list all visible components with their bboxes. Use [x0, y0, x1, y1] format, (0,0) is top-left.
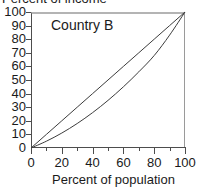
x-axis-tick	[185, 148, 186, 154]
x-axis-tick-label: 80	[141, 156, 167, 169]
x-axis-tick	[154, 148, 155, 154]
y-axis-tick	[26, 12, 31, 13]
x-axis-tick-label: 40	[80, 156, 106, 169]
x-axis-minor-tick	[139, 148, 140, 151]
y-axis-tick	[26, 134, 31, 135]
y-axis-tick	[26, 66, 31, 67]
y-axis-tick	[26, 121, 31, 122]
y-axis-tick-label: 30	[2, 100, 26, 113]
y-axis-tick	[26, 80, 31, 81]
x-axis-tick	[31, 148, 32, 154]
y-axis-tick-label: 100	[2, 5, 26, 18]
y-axis-tick-label: 90	[2, 19, 26, 32]
y-axis-tick	[26, 53, 31, 54]
y-axis-tick-label: 50	[2, 73, 26, 86]
x-axis-minor-tick	[77, 148, 78, 151]
x-axis-tick-label: 60	[110, 156, 136, 169]
y-axis-tick	[26, 26, 31, 27]
x-axis-tick-label: 0	[18, 156, 44, 169]
y-axis-tick-label: 60	[2, 59, 26, 72]
y-axis-tick-label: 10	[2, 127, 26, 140]
x-axis-tick	[93, 148, 94, 154]
y-axis-tick	[26, 107, 31, 108]
y-axis-tick-label: 40	[2, 87, 26, 100]
y-axis-tick-label: 70	[2, 46, 26, 59]
series-annotation-label: Country B	[51, 17, 113, 33]
y-axis-tick	[26, 94, 31, 95]
x-axis-tick	[123, 148, 124, 154]
lorenz-curve-chart: Percent of income 0102030405060708090100…	[0, 0, 201, 190]
y-axis-tick-label: 80	[2, 32, 26, 45]
x-axis-tick	[62, 148, 63, 154]
y-axis-tick-label: 0	[2, 141, 26, 154]
x-axis-minor-tick	[170, 148, 171, 151]
x-axis-tick-label: 100	[172, 156, 198, 169]
x-axis-tick-label: 20	[49, 156, 75, 169]
x-axis-minor-tick	[108, 148, 109, 151]
x-axis-title: Percent of population	[52, 172, 175, 187]
y-axis-tick-label: 20	[2, 114, 26, 127]
y-axis-tick	[26, 39, 31, 40]
x-axis-minor-tick	[46, 148, 47, 151]
